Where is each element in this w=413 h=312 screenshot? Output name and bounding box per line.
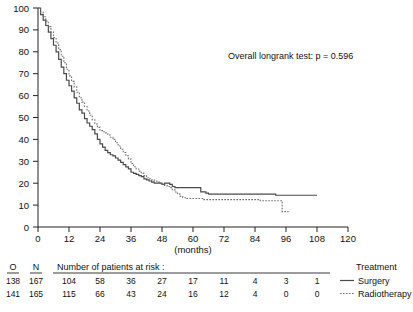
- x-tick-label: 48: [157, 233, 168, 244]
- legend-title: Treatment: [356, 262, 397, 272]
- legend-label-radiotherapy: Radiotherapy: [358, 289, 412, 299]
- y-tick-label: 100: [13, 3, 29, 14]
- risk-count-value: 11: [220, 276, 229, 286]
- risk-count-value: 17: [188, 276, 198, 286]
- risk-count-value: 1: [315, 276, 320, 286]
- y-tick-label: 20: [18, 178, 29, 189]
- risk-o-value: 138: [6, 276, 20, 286]
- x-tick-label: 60: [188, 233, 199, 244]
- y-tick-label: 60: [18, 90, 29, 101]
- risk-col-n-header: N: [33, 262, 40, 272]
- risk-count-value: 0: [284, 289, 289, 299]
- y-axis-ticks: 0102030405060708090100: [13, 3, 38, 233]
- risk-count-value: 58: [95, 276, 105, 286]
- risk-n-value: 165: [29, 289, 43, 299]
- x-tick-label: 96: [281, 233, 292, 244]
- risk-table-title: Number of patients at risk :: [57, 262, 165, 272]
- longrank-annotation: Overall longrank test: p = 0.596: [228, 51, 353, 61]
- risk-count-value: 36: [126, 276, 136, 286]
- y-tick-label: 10: [18, 200, 29, 211]
- x-tick-label: 0: [35, 233, 40, 244]
- x-tick-label: 120: [340, 233, 356, 244]
- x-tick-label: 24: [95, 233, 106, 244]
- risk-count-value: 115: [62, 289, 76, 299]
- x-tick-label: 12: [64, 233, 75, 244]
- risk-count-value: 4: [253, 276, 258, 286]
- x-tick-label: 72: [219, 233, 230, 244]
- risk-count-value: 24: [157, 289, 167, 299]
- risk-count-value: 104: [62, 276, 76, 286]
- legend-label-surgery: Surgery: [358, 276, 390, 286]
- risk-count-value: 16: [188, 289, 198, 299]
- risk-count-value: 27: [157, 276, 167, 286]
- risk-col-o-header: O: [9, 262, 16, 272]
- y-tick-label: 70: [18, 68, 29, 79]
- y-tick-label: 80: [18, 46, 29, 57]
- x-tick-label: 108: [309, 233, 325, 244]
- x-axis-ticks: 01224364860728496108120: [35, 227, 356, 244]
- y-tick-label: 50: [18, 112, 29, 123]
- survival-chart: 0102030405060708090100 01224364860728496…: [0, 0, 413, 312]
- curve-radiotherapy: [38, 8, 289, 212]
- survival-curves: [38, 8, 317, 212]
- curve-surgery: [38, 8, 317, 195]
- risk-n-value: 167: [29, 276, 43, 286]
- risk-o-value: 141: [6, 289, 20, 299]
- risk-count-value: 66: [95, 289, 105, 299]
- y-tick-label: 90: [18, 24, 29, 35]
- y-tick-label: 0: [24, 222, 29, 233]
- risk-count-value: 3: [284, 276, 289, 286]
- y-tick-label: 30: [18, 156, 29, 167]
- risk-count-value: 0: [315, 289, 320, 299]
- risk-count-value: 43: [126, 289, 136, 299]
- x-axis-title: (months): [174, 244, 211, 255]
- risk-count-value: 12: [219, 289, 229, 299]
- x-tick-label: 84: [250, 233, 261, 244]
- risk-table: ONNumber of patients at risk :Treatment1…: [6, 262, 412, 299]
- risk-count-value: 4: [253, 289, 258, 299]
- x-tick-label: 36: [126, 233, 137, 244]
- y-tick-label: 40: [18, 134, 29, 145]
- chart-svg: 0102030405060708090100 01224364860728496…: [0, 0, 413, 312]
- plot-area: 0102030405060708090100 01224364860728496…: [13, 3, 356, 245]
